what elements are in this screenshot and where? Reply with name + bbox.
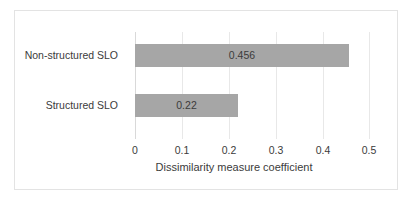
x-tick-label: 0.4 (303, 142, 343, 158)
x-tick-label: 0.3 (256, 142, 296, 158)
chart-container: 0.456 0.22 Non-structured SLO Structured… (14, 10, 398, 190)
x-tick-label: 0.5 (349, 142, 389, 158)
x-tick-label: 0.1 (162, 142, 202, 158)
gridline-5 (369, 32, 370, 139)
x-axis-title: Dissimilarity measure coefficient (15, 161, 397, 173)
x-tick-label: 0.2 (209, 142, 249, 158)
bar-value-label: 0.22 (135, 94, 238, 117)
category-label-non-structured-slo: Non-structured SLO (25, 44, 118, 67)
x-tick-label: 0 (115, 142, 155, 158)
plot-area: 0.456 0.22 (135, 32, 370, 139)
category-label-structured-slo: Structured SLO (46, 94, 118, 117)
x-axis-tick-row: 0 0.1 0.2 0.3 0.4 0.5 (135, 142, 370, 158)
bar-value-label: 0.456 (135, 44, 349, 67)
